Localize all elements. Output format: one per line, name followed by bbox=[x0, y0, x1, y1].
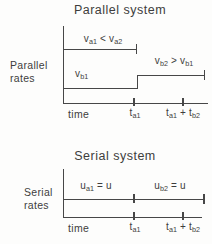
parallel-rate-a-line bbox=[63, 49, 137, 51]
serial-x-tick-1-label: ta1 bbox=[118, 221, 152, 232]
serial-segment-b-annotation: ub2 = u bbox=[140, 180, 200, 191]
parallel-y-axis bbox=[63, 26, 65, 104]
serial-segment-a-annotation: ua1 = u bbox=[66, 180, 126, 191]
serial-chart-title: Serial system bbox=[50, 149, 180, 163]
parallel-time-label: time bbox=[68, 108, 89, 121]
parallel-rate-b-end-tick bbox=[204, 70, 206, 81]
parallel-x-axis bbox=[63, 103, 208, 105]
serial-time-label: time bbox=[68, 222, 89, 235]
parallel-rate-b-high-line bbox=[137, 75, 205, 77]
parallel-rate-b-step bbox=[137, 75, 139, 89]
parallel-x-tick-2 bbox=[182, 98, 184, 106]
serial-x-tick-2 bbox=[182, 212, 184, 220]
parallel-x-tick-1-label: ta1 bbox=[118, 107, 152, 118]
parallel-rate-a-annotation: va1 < va2 bbox=[68, 33, 138, 44]
serial-rate-end-tick bbox=[203, 194, 205, 204]
serial-x-axis bbox=[63, 217, 202, 219]
parallel-rate-b-low-annotation: vb1 bbox=[75, 68, 88, 79]
serial-y-axis-label: Serial rates bbox=[24, 186, 53, 211]
serial-rate-mid-tick bbox=[133, 194, 135, 203]
figure-canvas: Parallel system Parallel rates va1 < va2… bbox=[0, 0, 212, 244]
parallel-rate-b-low-line bbox=[63, 88, 138, 90]
serial-y-axis bbox=[63, 169, 65, 218]
serial-x-tick-2-label: ta1 + tb2 bbox=[154, 221, 212, 232]
parallel-chart-title: Parallel system bbox=[50, 3, 190, 17]
parallel-y-axis-label-line2: rates bbox=[10, 72, 48, 85]
parallel-rate-a-end-tick bbox=[136, 44, 138, 55]
parallel-y-axis-label-line1: Parallel bbox=[10, 59, 48, 72]
parallel-rate-b-high-annotation: vb2 > vb1 bbox=[141, 55, 207, 66]
serial-x-tick-1 bbox=[133, 212, 135, 220]
parallel-y-axis-label: Parallel rates bbox=[10, 59, 48, 84]
serial-y-axis-label-line2: rates bbox=[24, 199, 53, 212]
parallel-x-tick-1 bbox=[133, 98, 135, 106]
parallel-x-tick-2-label: ta1 + tb2 bbox=[154, 107, 212, 118]
serial-y-axis-label-line1: Serial bbox=[24, 186, 53, 199]
